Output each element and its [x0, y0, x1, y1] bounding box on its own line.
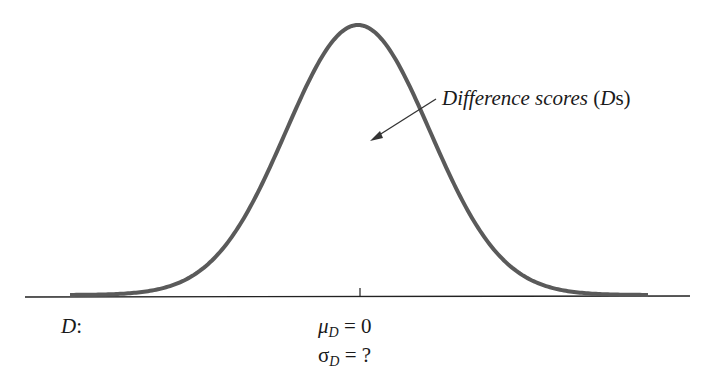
curve-label-paren: ( — [588, 86, 600, 110]
x-axis — [25, 296, 690, 297]
normal-curve — [70, 25, 648, 295]
curve-label-rest: s) — [615, 86, 630, 110]
curve-label-text: Difference scores — [442, 86, 588, 110]
mean-value: = 0 — [339, 314, 372, 338]
sd-value: = ? — [339, 343, 371, 367]
curve-label-var: D — [600, 86, 615, 110]
sigma-symbol: σ — [318, 343, 329, 367]
mu-subscript: D — [329, 325, 339, 340]
mu-symbol: μ — [318, 314, 329, 338]
arrow-head-icon — [370, 131, 383, 141]
axis-label-var: D — [61, 314, 76, 338]
curve-label: Difference scores (Ds) — [442, 88, 631, 109]
label-arrow — [376, 99, 436, 137]
sigma-subscript: D — [329, 354, 339, 369]
sd-label: σD = ? — [318, 345, 371, 369]
axis-label-colon: : — [76, 314, 82, 338]
mean-label: μD = 0 — [318, 316, 372, 340]
axis-label: D: — [61, 316, 82, 337]
